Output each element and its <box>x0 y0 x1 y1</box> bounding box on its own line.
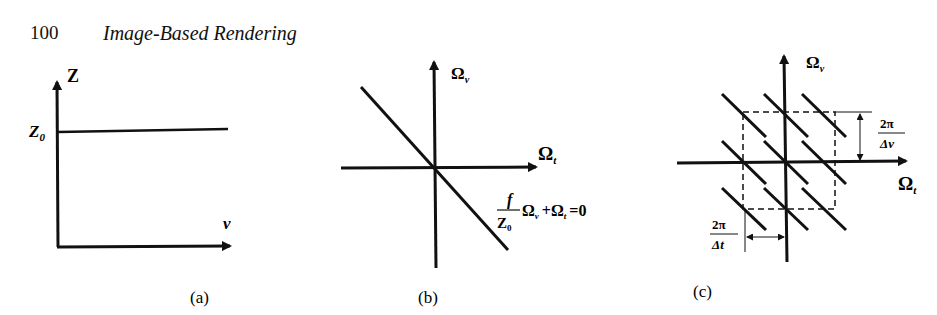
caption-c: (c) <box>693 282 712 301</box>
b-omega-t-label: Ωt <box>538 143 557 166</box>
figure-a: Z Z0 v (a) <box>28 66 231 307</box>
c-dv-denominator: Δv <box>879 136 894 151</box>
a-z-axis-label: Z <box>67 66 79 86</box>
figure-canvas: Z Z0 v (a) Ωv Ωt f Z0 Ωv+Ωt=0 (b) <box>0 0 937 315</box>
figure-b: Ωv Ωt f Z0 Ωv+Ωt=0 (b) <box>341 62 586 307</box>
figure-c: 2π Δv 2π Δt Ωv Ωt (c) <box>677 53 917 301</box>
caption-b: (b) <box>418 288 438 307</box>
c-omega-t-axis <box>677 161 906 163</box>
b-omega-v-label: Ωv <box>451 64 470 85</box>
replica-segment <box>722 94 766 137</box>
eq-denominator: Z0 <box>497 215 512 233</box>
b-omega-t-axis <box>341 167 536 168</box>
b-equation: f Z0 Ωv+Ωt=0 <box>497 191 586 233</box>
a-v-axis-label: v <box>223 214 231 233</box>
c-dt-denominator: Δt <box>711 237 724 252</box>
c-dv-numerator: 2π <box>880 116 894 131</box>
c-omega-v-label: Ωv <box>806 53 825 74</box>
c-dt-numerator: 2π <box>712 217 726 232</box>
caption-a: (a) <box>190 288 209 307</box>
eq-terms: Ωv+Ωt=0 <box>522 202 586 221</box>
a-z-axis <box>57 82 58 247</box>
c-omega-t-label: Ωt <box>898 173 917 196</box>
a-v-axis <box>57 246 230 247</box>
eq-numerator: f <box>507 191 514 209</box>
a-z0-level-line <box>58 129 228 132</box>
a-z0-label: Z0 <box>28 122 45 143</box>
b-omega-v-axis <box>434 62 436 268</box>
replica-segment <box>802 94 846 137</box>
